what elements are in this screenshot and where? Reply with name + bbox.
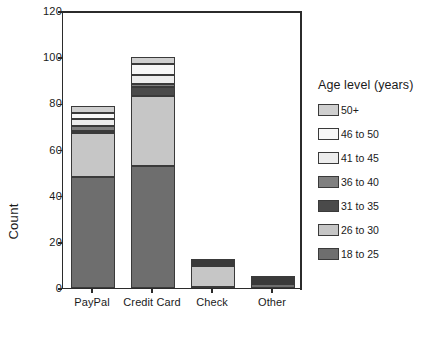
bar-segment[interactable] xyxy=(131,166,175,288)
legend-label: 41 to 45 xyxy=(341,152,379,164)
y-tick-label: 40 xyxy=(26,191,62,202)
bar-segment[interactable] xyxy=(131,57,175,64)
y-tick-label: 120 xyxy=(26,6,62,17)
legend-swatch xyxy=(318,152,339,164)
stacked-bar-chart: 020406080100120 Count PayPalCredit CardC… xyxy=(0,0,423,339)
y-tick-label: 100 xyxy=(26,52,62,63)
y-tick-label: 60 xyxy=(26,145,62,156)
bar-segment[interactable] xyxy=(71,119,115,126)
legend-swatch xyxy=(318,104,339,116)
legend-title: Age level (years) xyxy=(318,78,414,92)
bar-stack[interactable] xyxy=(131,11,175,288)
x-tick-mark xyxy=(151,289,152,293)
y-tick-label: 80 xyxy=(26,98,62,109)
bar-segment[interactable] xyxy=(71,177,115,288)
legend-label: 26 to 30 xyxy=(341,224,379,236)
legend-swatch xyxy=(318,176,339,188)
x-tick-mark xyxy=(271,289,272,293)
bar-segment[interactable] xyxy=(191,259,235,261)
bar-stack[interactable] xyxy=(191,11,235,288)
bar-segment[interactable] xyxy=(71,131,115,134)
x-tick-label: Other xyxy=(227,296,317,308)
y-tick-label: 20 xyxy=(26,237,62,248)
legend-swatch xyxy=(318,248,339,260)
legend-label: 46 to 50 xyxy=(341,128,379,140)
bar-stack[interactable] xyxy=(251,11,295,288)
bar-segment[interactable] xyxy=(131,75,175,84)
x-tick-mark xyxy=(91,289,92,293)
bar-segment[interactable] xyxy=(191,266,235,287)
bar-segment[interactable] xyxy=(71,106,115,113)
y-tick-label: 0 xyxy=(26,283,62,294)
bar-segment[interactable] xyxy=(71,113,115,119)
bar-segment[interactable] xyxy=(71,126,115,131)
legend-label: 50+ xyxy=(341,104,359,116)
y-axis-title: Count xyxy=(6,187,21,257)
bar-segment[interactable] xyxy=(71,133,115,177)
legend-swatch xyxy=(318,200,339,212)
y-axis: 020406080100120 xyxy=(0,0,62,339)
bar-segment[interactable] xyxy=(131,96,175,165)
plot-area xyxy=(62,12,302,289)
legend-label: 18 to 25 xyxy=(341,248,379,260)
legend-label: 36 to 40 xyxy=(341,176,379,188)
bar-segment[interactable] xyxy=(131,84,175,87)
bar-stack[interactable] xyxy=(71,11,115,288)
legend-swatch xyxy=(318,224,339,236)
bar-segment[interactable] xyxy=(131,64,175,75)
bar-segment[interactable] xyxy=(251,276,295,278)
legend-swatch xyxy=(318,128,339,140)
bar-segment[interactable] xyxy=(251,284,295,288)
x-tick-mark xyxy=(211,289,212,293)
bar-segment[interactable] xyxy=(131,87,175,96)
legend-label: 31 to 35 xyxy=(341,200,379,212)
